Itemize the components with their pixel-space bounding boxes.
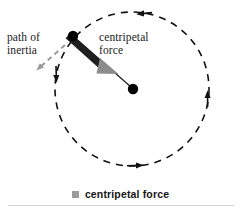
legend: centripetal force <box>0 186 241 202</box>
legend-label: centripetal force <box>85 189 169 200</box>
path-of-inertia-arrow <box>39 45 65 68</box>
footer-divider <box>8 205 234 206</box>
orbiting-body-dot <box>68 31 78 41</box>
gray-square-swatch <box>72 191 79 198</box>
central-body-dot <box>128 84 138 94</box>
path-of-inertia-label: path of inertia <box>7 31 40 56</box>
centripetal-force-label: centripetal force <box>99 31 149 56</box>
centripetal-force-figure: path of inertia centripetal force centri… <box>0 0 241 213</box>
